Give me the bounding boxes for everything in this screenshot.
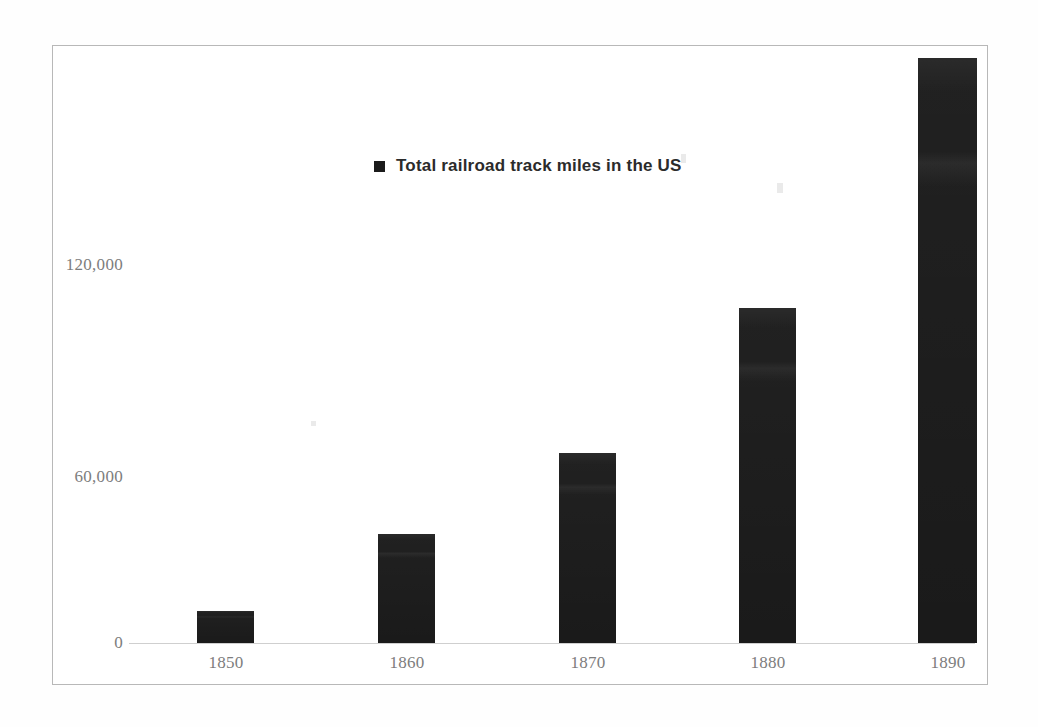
- x-tick-label-1880: 1880: [727, 653, 809, 673]
- bar-1860[interactable]: [378, 534, 435, 643]
- y-tick-label-60000: 60,000: [74, 467, 123, 487]
- bar-1880[interactable]: [739, 308, 796, 643]
- x-tick-label-1850: 1850: [185, 653, 267, 673]
- chart-legend: Total railroad track miles in the US: [374, 156, 682, 176]
- bar-1890[interactable]: [918, 58, 977, 643]
- legend-label: Total railroad track miles in the US: [396, 156, 682, 176]
- scanned-page: 120,000 60,000 0 1850 1860 1870 1880 189…: [0, 0, 1038, 727]
- category-axis-line: [129, 643, 975, 644]
- y-axis-tick-labels: 120,000 60,000 0: [53, 46, 123, 686]
- y-tick-label-120000: 120,000: [66, 255, 123, 275]
- plot-area: 120,000 60,000 0 1850 1860 1870 1880 189…: [53, 46, 989, 686]
- scan-artifact: [311, 421, 316, 426]
- bar-1850[interactable]: [197, 611, 254, 643]
- chart-frame: 120,000 60,000 0 1850 1860 1870 1880 189…: [52, 45, 988, 685]
- bar-1870[interactable]: [559, 453, 616, 643]
- x-tick-label-1890: 1890: [907, 653, 989, 673]
- x-tick-label-1870: 1870: [547, 653, 629, 673]
- scan-artifact: [681, 154, 686, 163]
- scan-artifact: [777, 183, 783, 193]
- legend-square-marker: [374, 161, 385, 172]
- x-tick-label-1860: 1860: [366, 653, 448, 673]
- y-tick-label-0: 0: [114, 633, 123, 653]
